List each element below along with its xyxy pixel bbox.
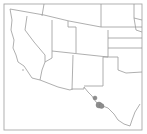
occurrence-point[interactable] [99,104,104,109]
map-svg [0,0,147,134]
occurrence-point[interactable] [93,96,97,100]
distribution-map [0,0,147,134]
